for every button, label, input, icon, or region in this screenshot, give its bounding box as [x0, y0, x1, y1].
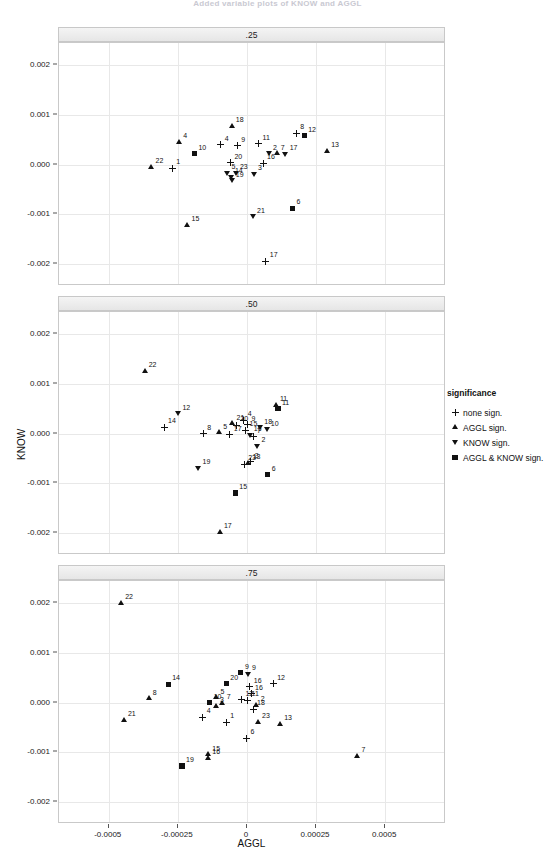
panel-strip-label: .25: [58, 27, 445, 42]
marker-square-icon: [238, 670, 243, 675]
data-point-label: 12: [308, 126, 316, 133]
data-point-label: 20: [234, 153, 242, 160]
marker-up-icon: [121, 717, 127, 722]
y-axis-tick-label: 0.001: [30, 109, 50, 118]
data-point-label: 6: [272, 465, 276, 472]
y-axis-tick-label: -0.001: [27, 478, 50, 487]
x-axis-tick-label: -0.00025: [161, 830, 193, 839]
panel-strip-label: .50: [58, 296, 445, 311]
y-axis-tick-label: 0.002: [30, 598, 50, 607]
gridline-vertical: [178, 312, 179, 553]
marker-up-icon: [118, 600, 124, 605]
gridline-vertical: [109, 581, 110, 822]
data-point-label: 5: [223, 423, 227, 430]
legend-item-down[interactable]: KNOW sign.: [447, 435, 543, 450]
data-point-label: 19: [203, 458, 211, 465]
legend-item-plus[interactable]: none sign.: [447, 405, 543, 420]
data-point-label: 4: [225, 135, 229, 142]
x-axis-label: AGGL: [58, 838, 445, 849]
legend-item-square[interactable]: AGGL & KNOW sign.: [447, 450, 543, 465]
gridline-vertical: [385, 43, 386, 284]
marker-square-icon: [290, 206, 295, 211]
x-axis-tick-label: -0.0005: [94, 830, 121, 839]
data-point-label: 21: [257, 207, 265, 214]
marker-down-icon: [251, 172, 257, 177]
y-axis-tick-label: 0.001: [30, 647, 50, 656]
data-point-label: 2: [261, 436, 265, 443]
gridline-horizontal: [59, 65, 444, 66]
y-axis-tick-mark: [53, 333, 57, 334]
gridline-horizontal: [59, 165, 444, 166]
data-point-label: 15: [239, 483, 247, 490]
data-point-label: 4: [207, 707, 211, 714]
plot-area: 2211111242120914181015581716721332319615…: [58, 311, 445, 554]
gridline-vertical: [109, 43, 110, 284]
data-point-label: 4: [183, 132, 187, 139]
data-point-label: 23: [248, 454, 256, 461]
legend-item-label: AGGL & KNOW sign.: [463, 453, 543, 463]
data-point-label: 22: [156, 157, 164, 164]
data-point-label: 17: [224, 522, 232, 529]
x-axis-tick-mark: [246, 824, 247, 828]
gridline-horizontal: [59, 264, 444, 265]
legend: significance none sign.AGGL sign.KNOW si…: [447, 388, 543, 465]
gridline-horizontal: [59, 603, 444, 604]
data-point-label: 22: [125, 593, 133, 600]
data-point-label: 7: [257, 427, 261, 434]
y-axis-tick-mark: [53, 531, 57, 532]
y-axis-tick-mark: [53, 163, 57, 164]
y-axis-tick-mark: [53, 432, 57, 433]
data-point-label: 3: [220, 696, 224, 703]
y-axis-tick-label: 0.000: [30, 159, 50, 168]
x-axis-tick-mark: [315, 824, 316, 828]
y-axis-tick-label: 0.002: [30, 60, 50, 69]
y-axis-tick-mark: [53, 800, 57, 801]
y-axis-tick-mark: [53, 262, 57, 263]
x-axis-tick-label: 0: [244, 830, 248, 839]
legend-key: [447, 420, 463, 435]
y-axis-tick-label: 0.000: [30, 428, 50, 437]
figure-title: Added variable plots of KNOW and AGGL: [0, 0, 555, 8]
data-point-label: 9: [252, 664, 256, 671]
marker-square-icon: [166, 682, 171, 687]
gridline-horizontal: [59, 802, 444, 803]
strip-text: .25: [246, 30, 258, 40]
marker-up-icon: [229, 123, 235, 128]
data-point-label: 17: [290, 144, 298, 151]
marker-square-icon: [302, 133, 307, 138]
marker-up-icon: [324, 148, 330, 153]
data-point-label: 16: [254, 677, 262, 684]
strip-text: .50: [246, 299, 258, 309]
marker-up-icon: [452, 424, 458, 429]
marker-up-icon: [142, 368, 148, 373]
y-axis-tick-mark: [53, 602, 57, 603]
data-point-label: 12: [277, 674, 285, 681]
y-axis-tick-label: -0.001: [27, 209, 50, 218]
marker-square-icon: [179, 763, 184, 768]
data-point-label: 21: [128, 710, 136, 717]
y-axis-tick-label: 0.001: [30, 378, 50, 387]
marker-down-icon: [264, 427, 270, 432]
y-axis-tick-label: -0.002: [27, 527, 50, 536]
gridline-vertical: [385, 581, 386, 822]
marker-down-icon: [452, 440, 458, 445]
y-axis-tick-label: -0.001: [27, 747, 50, 756]
strip-text: .75: [246, 568, 258, 578]
plot-area: 1881244911132717102016221523314196211517: [58, 42, 445, 285]
gridline-vertical: [178, 581, 179, 822]
data-point-label: 7: [281, 144, 285, 151]
marker-down-icon: [282, 152, 288, 157]
marker-up-icon: [216, 429, 222, 434]
data-point-label: 13: [331, 141, 339, 148]
panel-p25: .251881244911132717102016221523314196211…: [58, 27, 445, 285]
gridline-horizontal: [59, 533, 444, 534]
data-point-label: 11: [282, 399, 289, 406]
data-point-label: 11: [263, 134, 270, 141]
data-point-label: 7: [227, 693, 231, 700]
data-point-label: 8: [153, 689, 157, 696]
legend-item-up[interactable]: AGGL sign.: [447, 420, 543, 435]
y-axis-tick-mark: [53, 382, 57, 383]
data-point-label: 16: [267, 153, 275, 160]
x-axis-tick-mark: [108, 824, 109, 828]
y-axis-tick-mark: [53, 113, 57, 114]
